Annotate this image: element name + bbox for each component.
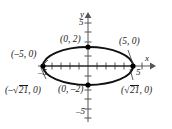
left-focus-prefix: (– — [5, 85, 13, 95]
right-focus-suffix: , 0) — [139, 85, 152, 95]
point-label-top-vertex: (0, 2) — [60, 35, 81, 45]
point-label-right-vertex: (5, 0) — [119, 37, 140, 47]
right-focus-sqrt-icon: √ — [124, 85, 129, 95]
point-label-left-vertex: (–5, 0) — [11, 50, 36, 60]
covertex-marker-bottom — [85, 82, 90, 87]
point-label-bottom-vertex: (0, –2) — [58, 85, 83, 95]
point-label-right-focus: (√21, 0) — [121, 85, 152, 96]
y-tick-label-negative-5: –5 — [76, 107, 85, 116]
x-tick-label-negative-5: –5 — [38, 68, 47, 77]
x-tick-label-positive-5: 5 — [136, 68, 141, 77]
covertex-marker-top — [85, 44, 90, 49]
right-focus-radicand: 21 — [130, 85, 140, 96]
left-focus-sqrt-icon: √ — [13, 85, 18, 95]
point-label-left-focus: (–√21, 0) — [5, 85, 41, 96]
left-focus-radicand: 21 — [19, 85, 29, 96]
coordinate-plane-svg — [0, 0, 172, 129]
x-axis-arrowhead — [150, 63, 156, 70]
left-focus-suffix: , 0) — [28, 85, 41, 95]
y-axis-arrowhead — [85, 12, 92, 18]
vertex-marker-right — [130, 63, 135, 68]
ellipse-graph-figure: y x 5 –5 –5 5 (0, 2) (0, –2) (–5, 0) (5,… — [0, 0, 172, 129]
x-axis-label: x — [145, 54, 149, 63]
y-tick-label-positive-5: 5 — [79, 18, 84, 27]
